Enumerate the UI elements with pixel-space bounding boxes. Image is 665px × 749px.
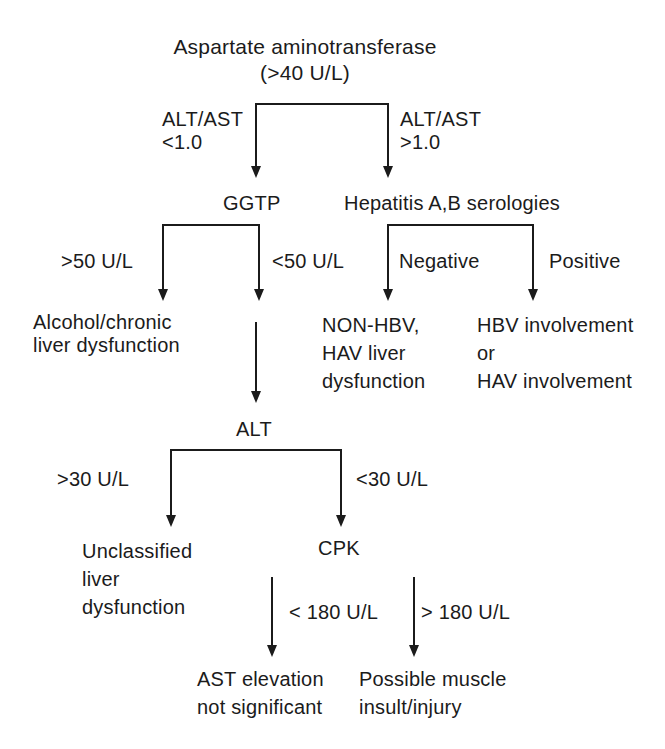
root-node-label: Aspartate aminotransferase (>40 U/L) — [75, 34, 535, 86]
result-hbv-involvement: HBV involvement or HAV involvement — [477, 311, 633, 395]
condition-cpk-high: > 180 U/L — [421, 601, 510, 624]
ggtp-node-label: GGTP — [223, 192, 280, 215]
arrow-cpk-high — [413, 577, 415, 645]
condition-hepatitis-negative: Negative — [399, 250, 480, 273]
alt-node-label: ALT — [236, 418, 272, 441]
arrow-alt-high — [170, 449, 172, 515]
ggtp-split-line — [163, 224, 260, 226]
arrow-ggtp-high — [162, 224, 164, 289]
result-muscle-injury: Possible muscle insult/injury — [359, 665, 507, 721]
condition-alt-high: >30 U/L — [57, 468, 129, 491]
arrow-hepatitis-positive — [532, 224, 534, 289]
arrow-alt-low — [340, 449, 342, 515]
arrow-ggtp-low — [258, 224, 260, 289]
root-split-line — [256, 103, 389, 105]
condition-cpk-low: < 180 U/L — [289, 601, 378, 624]
condition-alt-low: <30 U/L — [356, 468, 428, 491]
arrow-root-to-hepatitis — [387, 103, 389, 166]
result-ast-not-significant: AST elevation not significant — [197, 665, 324, 721]
condition-alt-ast-high: ALT/AST >1.0 — [400, 108, 481, 154]
result-non-hbv: NON-HBV, HAV liver dysfunction — [322, 311, 425, 395]
flowchart-canvas: Aspartate aminotransferase (>40 U/L) ALT… — [0, 0, 665, 749]
hepatitis-node-label: Hepatitis A,B serologies — [344, 192, 560, 215]
hepatitis-split-line — [388, 224, 533, 226]
arrow-root-to-ggtp — [255, 103, 257, 166]
cpk-node-label: CPK — [318, 537, 360, 560]
condition-ggtp-low: <50 U/L — [272, 250, 344, 273]
condition-hepatitis-positive: Positive — [549, 250, 621, 273]
arrow-ggtp-low-to-alt — [255, 322, 257, 391]
arrow-hepatitis-negative — [387, 224, 389, 289]
condition-alt-ast-low: ALT/AST <1.0 — [162, 108, 243, 154]
result-alcohol-chronic: Alcohol/chronic liver dysfunction — [33, 311, 180, 357]
arrow-cpk-low — [271, 577, 273, 645]
result-unclassified: Unclassified liver dysfunction — [82, 537, 192, 621]
alt-split-line — [171, 449, 342, 451]
condition-ggtp-high: >50 U/L — [61, 250, 133, 273]
